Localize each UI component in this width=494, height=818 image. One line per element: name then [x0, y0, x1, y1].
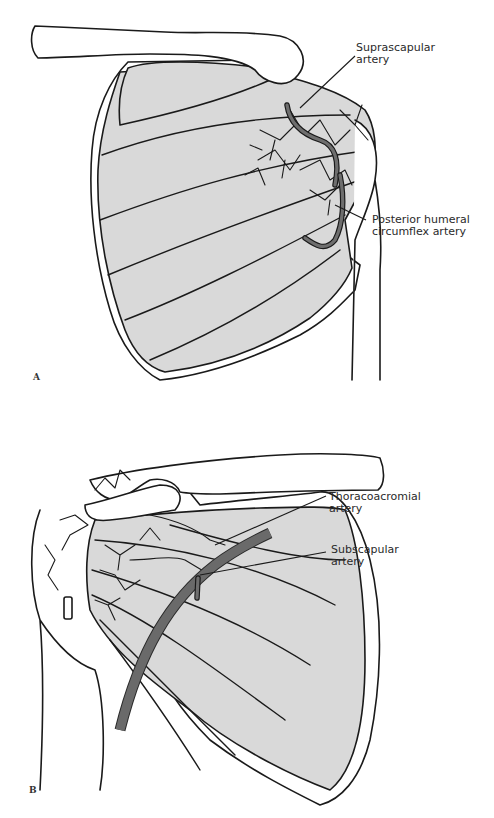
- label-line: circumflex artery: [372, 226, 470, 238]
- label-thoracoacromial-artery: Thoracoacromial artery: [329, 491, 421, 515]
- humerus-a: [352, 120, 381, 380]
- anatomy-illustration: [0, 0, 494, 818]
- label-line: artery: [331, 556, 399, 568]
- panel-letter-a: A: [33, 372, 40, 382]
- panel-letter-b: B: [29, 785, 37, 795]
- label-posterior-humeral-circumflex-artery: Posterior humeral circumflex artery: [372, 214, 470, 238]
- panel-a-illustration: [32, 26, 381, 380]
- label-suprascapular-artery: Suprascapular artery: [356, 42, 435, 66]
- label-line: artery: [356, 54, 435, 66]
- cut-vessel-stump: [64, 597, 72, 619]
- label-subscapular-artery: Subscapular artery: [331, 544, 399, 568]
- label-line: artery: [329, 503, 421, 515]
